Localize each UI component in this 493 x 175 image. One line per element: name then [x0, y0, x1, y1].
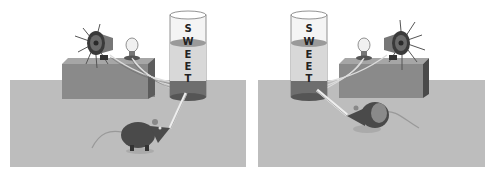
tube-letter: W — [303, 36, 314, 47]
right-panel: S W E E T — [247, 0, 493, 175]
tube-letter: W — [182, 36, 193, 47]
light-bulb-icon — [124, 38, 140, 61]
tube-letter: T — [185, 73, 192, 84]
light-bulb-icon — [356, 38, 372, 61]
box — [339, 58, 429, 98]
tube-letter: S — [184, 23, 191, 34]
tube-letter: S — [305, 23, 312, 34]
tube-letter: E — [185, 49, 192, 60]
right-scene: S W E E T — [247, 0, 493, 175]
sweet-tube: S W E E T — [291, 11, 327, 101]
tube-letter: T — [306, 73, 313, 84]
sweet-tube: S W E E T — [170, 11, 206, 101]
box — [62, 58, 155, 99]
tube-letter: E — [306, 49, 313, 60]
left-panel: S W E E T — [0, 0, 246, 175]
left-scene: S W E E T — [0, 0, 246, 175]
tube-letter: E — [185, 61, 192, 72]
tube-letter: E — [306, 61, 313, 72]
